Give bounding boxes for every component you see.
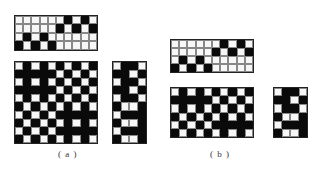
empty-cell [245,56,253,64]
filled-cell [81,86,89,94]
filled-cell [282,121,290,129]
panel-a-label: ( a ) [58,149,78,159]
empty-cell [56,102,64,110]
filled-cell [113,102,121,110]
filled-cell [245,48,253,56]
empty-cell [237,104,245,112]
empty-cell [40,16,48,24]
filled-cell [237,96,245,104]
filled-cell [237,121,245,129]
filled-cell [15,119,23,127]
empty-cell [48,127,56,135]
empty-cell [40,135,48,143]
filled-cell [89,78,97,86]
filled-cell [64,135,72,143]
empty-cell [64,94,72,102]
empty-cell [15,111,23,119]
empty-cell [48,111,56,119]
filled-cell [129,127,137,135]
empty-cell [274,88,282,96]
filled-cell [15,102,23,110]
filled-cell [56,111,64,119]
filled-cell [48,70,56,78]
filled-cell [48,41,56,49]
filled-cell [72,78,80,86]
filled-cell [81,16,89,24]
filled-cell [56,62,64,70]
empty-cell [220,64,228,72]
filled-cell [15,86,23,94]
empty-cell [171,104,179,112]
filled-cell [196,96,204,104]
empty-cell [228,129,236,137]
filled-cell [121,111,129,119]
filled-cell [64,111,72,119]
empty-cell [179,40,187,48]
empty-cell [56,16,64,24]
empty-cell [23,24,31,32]
empty-cell [40,24,48,32]
empty-cell [129,70,137,78]
empty-cell [204,88,212,96]
filled-cell [220,40,228,48]
empty-cell [274,121,282,129]
empty-cell [72,33,80,41]
filled-cell [121,62,129,70]
empty-cell [282,129,290,137]
filled-cell [299,96,307,104]
filled-cell [187,64,195,72]
filled-cell [228,121,236,129]
filled-cell [64,102,72,110]
empty-cell [171,40,179,48]
filled-cell [64,119,72,127]
empty-cell [89,119,97,127]
empty-cell [237,88,245,96]
empty-cell [129,119,137,127]
empty-cell [212,96,220,104]
filled-cell [212,104,220,112]
empty-cell [138,62,146,70]
filled-cell [299,121,307,129]
filled-cell [56,94,64,102]
empty-cell [299,104,307,112]
filled-cell [220,113,228,121]
empty-cell [290,113,298,121]
empty-cell [81,62,89,70]
empty-cell [64,78,72,86]
filled-cell [113,135,121,143]
empty-cell [31,62,39,70]
filled-cell [196,104,204,112]
filled-cell [40,70,48,78]
filled-cell [89,94,97,102]
filled-cell [31,135,39,143]
filled-cell [56,78,64,86]
filled-cell [196,56,204,64]
filled-cell [179,88,187,96]
empty-cell [220,104,228,112]
empty-cell [290,129,298,137]
filled-cell [81,119,89,127]
filled-cell [204,129,212,137]
filled-cell [72,111,80,119]
empty-cell [237,48,245,56]
panel-a-threading-grid [14,15,98,51]
filled-cell [290,88,298,96]
empty-cell [40,41,48,49]
empty-cell [56,33,64,41]
filled-cell [228,88,236,96]
empty-cell [220,56,228,64]
empty-cell [179,48,187,56]
empty-cell [48,62,56,70]
filled-cell [40,111,48,119]
empty-cell [81,24,89,32]
filled-cell [129,111,137,119]
empty-cell [187,121,195,129]
filled-cell [129,62,137,70]
filled-cell [15,135,23,143]
filled-cell [171,96,179,104]
empty-cell [81,33,89,41]
empty-cell [129,102,137,110]
filled-cell [121,127,129,135]
empty-cell [245,129,253,137]
empty-cell [129,86,137,94]
